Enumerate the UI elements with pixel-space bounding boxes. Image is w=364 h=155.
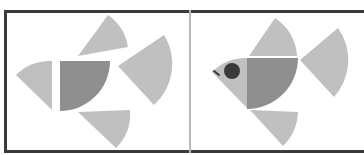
left-panel-exploded — [16, 15, 172, 148]
fish-tail-fin — [300, 28, 348, 97]
top-fin-piece — [78, 15, 128, 56]
fish-body — [247, 58, 298, 109]
body-quarter-piece — [60, 61, 110, 111]
fish-bottom-fin — [250, 110, 298, 146]
fish-top-fin — [249, 18, 297, 56]
fish-eye — [224, 63, 240, 79]
right-panel-fish — [212, 18, 348, 146]
bottom-fin-piece — [78, 110, 130, 148]
tail-left-piece — [16, 61, 52, 110]
